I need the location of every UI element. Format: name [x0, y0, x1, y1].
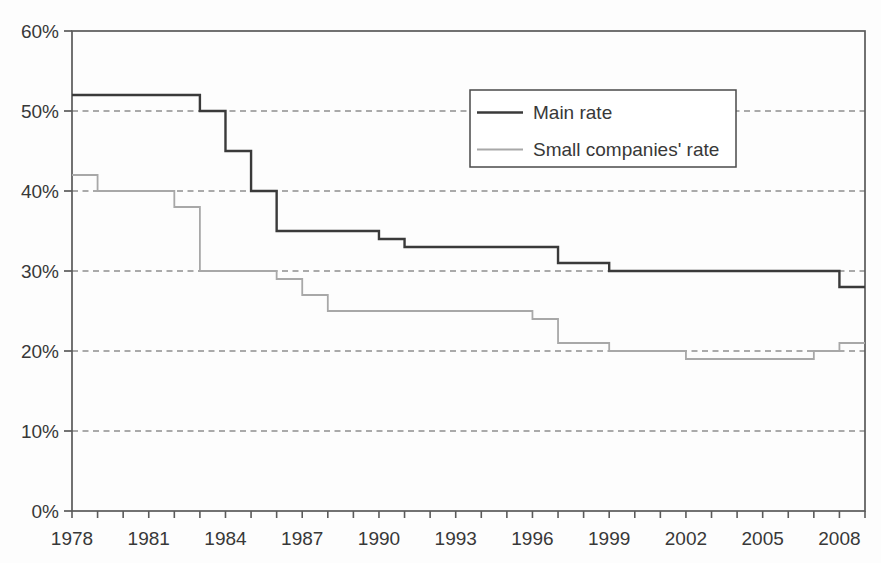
legend: Main rateSmall companies' rate	[470, 90, 736, 167]
corporation-tax-rates-step-chart: 0%10%20%30%40%50%60%19781981198419871990…	[0, 0, 881, 563]
x-tick-label-1978: 1978	[51, 528, 93, 549]
y-tick-label-40: 40%	[21, 181, 59, 202]
small-companies-rate-line	[72, 175, 865, 359]
x-tick-label-1981: 1981	[128, 528, 170, 549]
y-tick-label-50: 50%	[21, 101, 59, 122]
x-tick-label-1999: 1999	[588, 528, 630, 549]
x-tick-label-2002: 2002	[665, 528, 707, 549]
x-tick-label-2005: 2005	[742, 528, 784, 549]
legend-label-0: Main rate	[533, 102, 612, 123]
y-tick-label-60: 60%	[21, 21, 59, 42]
x-tick-label-2008: 2008	[818, 528, 860, 549]
x-tick-label-1987: 1987	[281, 528, 323, 549]
x-tick-label-1996: 1996	[511, 528, 553, 549]
y-tick-label-20: 20%	[21, 341, 59, 362]
y-tick-label-10: 10%	[21, 421, 59, 442]
chart-page: 0%10%20%30%40%50%60%19781981198419871990…	[0, 0, 881, 563]
x-tick-label-1990: 1990	[358, 528, 400, 549]
y-tick-label-0: 0%	[32, 501, 60, 522]
y-tick-label-30: 30%	[21, 261, 59, 282]
x-tick-label-1993: 1993	[435, 528, 477, 549]
legend-label-1: Small companies' rate	[533, 139, 719, 160]
x-tick-label-1984: 1984	[204, 528, 247, 549]
